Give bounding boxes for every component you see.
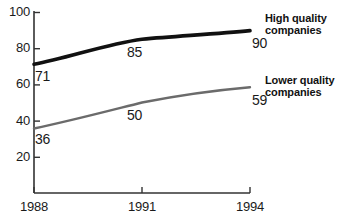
data-label-lower-quality-1991: 50 <box>127 107 142 123</box>
y-axis-tick-label-100: 100 <box>0 4 30 19</box>
data-label-high-quality-1994: 90 <box>252 35 267 51</box>
x-axis-tick-label-1994: 1994 <box>224 199 276 214</box>
x-axis-tick-label-1991: 1991 <box>116 199 168 214</box>
legend-lower-quality-companies: Lower quality companies <box>265 74 335 99</box>
legend-lower-quality-line1: Lower quality <box>265 74 335 86</box>
legend-high-quality-companies: High quality companies <box>265 12 327 37</box>
line-chart: 100 80 60 40 20 1988 1991 1994 71 85 90 … <box>0 0 345 223</box>
legend-high-quality-line1: High quality <box>265 12 327 24</box>
legend-lower-quality-line2: companies <box>265 86 335 98</box>
x-axis-tick-label-1988: 1988 <box>8 199 60 214</box>
y-axis-tick-label-20: 20 <box>0 149 30 164</box>
y-axis-tick-label-40: 40 <box>0 113 30 128</box>
data-label-high-quality-1988: 71 <box>35 68 50 84</box>
y-axis-tick-label-60: 60 <box>0 76 30 91</box>
y-axis-tick-label-80: 80 <box>0 40 30 55</box>
legend-high-quality-line2: companies <box>265 24 327 36</box>
data-label-high-quality-1991: 85 <box>127 44 142 60</box>
data-label-lower-quality-1988: 36 <box>35 131 50 147</box>
